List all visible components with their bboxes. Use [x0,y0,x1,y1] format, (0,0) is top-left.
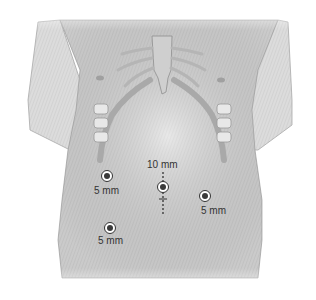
port-right [200,191,211,202]
torso-drawing [0,0,316,300]
port-label-left-upper: 5 mm [94,186,119,196]
torso-illustration: 5 mm 10 mm 5 mm 5 mm [0,0,316,300]
port-umbilical [158,182,169,193]
port-label-right: 5 mm [201,206,226,216]
right-nipple [217,78,225,83]
left-nipple [96,76,104,81]
port-left-upper [102,171,113,182]
port-label-umbilical: 10 mm [147,160,178,170]
port-left-lower [105,223,116,234]
port-label-left-lower: 5 mm [98,236,123,246]
